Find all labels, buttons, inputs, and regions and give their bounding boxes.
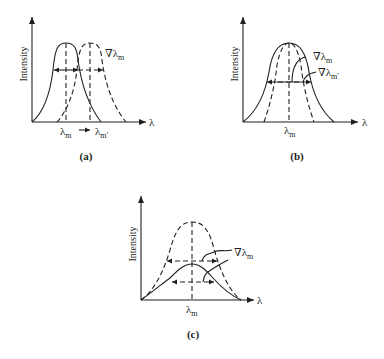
panel-b: Intensity λ ∇λm ∇λm' λm (b): [229, 17, 368, 163]
leader-line-1: [292, 57, 306, 82]
x-axis-label: λ: [257, 294, 263, 306]
y-axis-label: Intensity: [18, 47, 29, 82]
caption-c: (c): [187, 328, 200, 341]
caption-a: (a): [80, 150, 93, 163]
peak-label-lambda-m: λm: [284, 124, 296, 139]
width-label: ∇λm: [234, 246, 254, 261]
y-axis-label: Intensity: [127, 227, 138, 262]
panel-c: Intensity λ ∇λm λm (c): [127, 196, 263, 341]
width-label-2: ∇λm': [318, 66, 339, 81]
peak-label-lambda-m: λm: [186, 303, 198, 318]
caption-b: (b): [290, 150, 304, 163]
peak-label-lambda-m-prime: λm': [95, 125, 109, 140]
peak-label-lambda-m: λm: [60, 125, 72, 140]
x-axis-label: λ: [149, 116, 155, 128]
width-label-1: ∇λm: [313, 50, 333, 65]
x-axis-label: λ: [362, 116, 368, 128]
figure: Intensity λ ∇λm λm λm' (a) Intensity λ ∇…: [0, 0, 384, 359]
y-axis-label: Intensity: [229, 47, 240, 82]
panel-a: Intensity λ ∇λm λm λm' (a): [18, 17, 155, 163]
width-label: ∇λm: [105, 47, 125, 62]
